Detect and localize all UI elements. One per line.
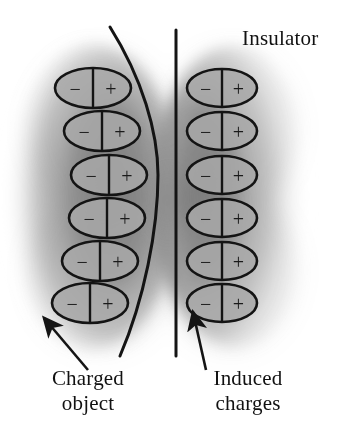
dipole-left-3: −+ xyxy=(71,155,147,195)
negative-charge-sign: − xyxy=(200,293,211,315)
dipole-left-6: −+ xyxy=(52,283,128,323)
negative-charge-sign: − xyxy=(200,208,211,230)
positive-charge-sign: + xyxy=(112,251,123,273)
negative-charge-sign: − xyxy=(200,78,211,100)
dipole-left-1: −+ xyxy=(55,68,131,108)
positive-charge-sign: + xyxy=(233,165,244,187)
positive-charge-sign: + xyxy=(233,78,244,100)
positive-charge-sign: + xyxy=(119,208,130,230)
positive-charge-sign: + xyxy=(233,251,244,273)
charged-object-arrow xyxy=(44,318,88,370)
positive-charge-sign: + xyxy=(233,121,244,143)
dipole-right-3: −+ xyxy=(187,156,257,194)
positive-charge-sign: + xyxy=(105,78,116,100)
insulator-label: Insulator xyxy=(242,26,318,51)
negative-charge-sign: − xyxy=(78,121,89,143)
negative-charge-sign: − xyxy=(200,121,211,143)
negative-charge-sign: − xyxy=(83,208,94,230)
negative-charge-sign: − xyxy=(200,251,211,273)
dipole-right-1: −+ xyxy=(187,69,257,107)
positive-charge-sign: + xyxy=(233,293,244,315)
negative-charge-sign: − xyxy=(200,165,211,187)
charged-object-column: −+−+−+−+−+−+ xyxy=(52,68,147,323)
positive-charge-sign: + xyxy=(114,121,125,143)
negative-charge-sign: − xyxy=(76,251,87,273)
dipole-right-2: −+ xyxy=(187,112,257,150)
dipole-right-5: −+ xyxy=(187,242,257,280)
induced-charges-column: −+−+−+−+−+−+ xyxy=(187,69,257,322)
dipole-left-2: −+ xyxy=(64,111,140,151)
induced-charges-label: Induced charges xyxy=(182,366,314,416)
positive-charge-sign: + xyxy=(121,165,132,187)
dipole-left-5: −+ xyxy=(62,241,138,281)
positive-charge-sign: + xyxy=(102,293,113,315)
negative-charge-sign: − xyxy=(85,165,96,187)
polarization-diagram: −+−+−+−+−+−+ −+−+−+−+−+−+ Insulator Char… xyxy=(0,0,356,444)
charged-object-label: Charged object xyxy=(22,366,154,416)
dipole-right-4: −+ xyxy=(187,199,257,237)
dipole-left-4: −+ xyxy=(69,198,145,238)
dipole-right-6: −+ xyxy=(187,284,257,322)
negative-charge-sign: − xyxy=(66,293,77,315)
positive-charge-sign: + xyxy=(233,208,244,230)
negative-charge-sign: − xyxy=(69,78,80,100)
